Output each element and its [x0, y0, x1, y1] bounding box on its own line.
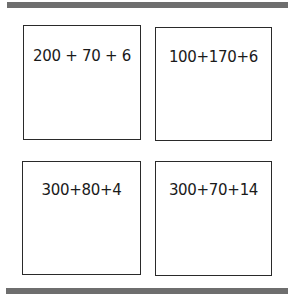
expression-card-4: 300+70+14: [155, 161, 272, 276]
top-divider-bar: [7, 2, 288, 8]
expression-text: 100+170+6: [156, 48, 271, 66]
expression-text: 200 + 70 + 6: [24, 47, 140, 65]
expression-card-2: 100+170+6: [155, 27, 272, 141]
bottom-divider-bar: [6, 288, 288, 294]
expression-card-3: 300+80+4: [22, 161, 141, 275]
expression-text: 300+80+4: [23, 181, 140, 199]
expression-text: 300+70+14: [156, 181, 271, 199]
expression-card-1: 200 + 70 + 6: [23, 25, 141, 140]
